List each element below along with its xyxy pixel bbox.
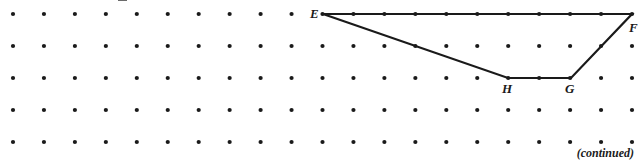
grid-dot <box>599 108 603 112</box>
grid-dot <box>475 108 479 112</box>
grid-dot <box>73 76 77 80</box>
grid-dot <box>413 108 417 112</box>
grid-dot <box>630 140 634 144</box>
grid-dot <box>166 44 170 48</box>
grid-dot <box>259 108 263 112</box>
grid-dot <box>506 140 510 144</box>
grid-dot <box>444 140 448 144</box>
continued-note: (continued) <box>577 146 634 161</box>
grid-dot <box>259 76 263 80</box>
grid-dot <box>104 76 108 80</box>
grid-dot <box>135 108 139 112</box>
grid-dot <box>228 140 232 144</box>
grid-dot <box>228 44 232 48</box>
grid-dot <box>104 108 108 112</box>
grid-dot <box>166 12 170 16</box>
grid-dot <box>289 76 293 80</box>
grid-dot <box>104 44 108 48</box>
grid-dot <box>166 140 170 144</box>
grid-dot <box>568 44 572 48</box>
grid-dot <box>73 12 77 16</box>
grid-dot <box>73 44 77 48</box>
grid-dot <box>475 44 479 48</box>
grid-dot <box>42 44 46 48</box>
grid-dot <box>599 140 603 144</box>
grid-dot <box>630 108 634 112</box>
grid-dot <box>259 140 263 144</box>
grid-dot <box>382 44 386 48</box>
grid-dot <box>599 76 603 80</box>
grid-dot <box>228 76 232 80</box>
grid-dot <box>475 76 479 80</box>
grid-dot <box>444 76 448 80</box>
grid-dot <box>289 44 293 48</box>
grid-dot <box>197 12 201 16</box>
grid-dot <box>506 44 510 48</box>
grid-dot <box>537 140 541 144</box>
grid-dot <box>630 76 634 80</box>
grid-dot <box>568 140 572 144</box>
grid-dot <box>413 140 417 144</box>
grid-dot <box>166 108 170 112</box>
grid-dot <box>506 108 510 112</box>
grid-dot <box>42 12 46 16</box>
dot-grid-figure-svg <box>0 0 640 164</box>
grid-dot <box>351 140 355 144</box>
grid-dot <box>135 12 139 16</box>
grid-dot <box>289 140 293 144</box>
grid-dot <box>259 44 263 48</box>
grid-dot <box>630 44 634 48</box>
grid-dot <box>568 108 572 112</box>
grid-dot <box>197 76 201 80</box>
grid-dot <box>73 108 77 112</box>
grid-dot <box>537 44 541 48</box>
grid-dot <box>228 12 232 16</box>
grid-dot <box>320 76 324 80</box>
figure-canvas: E F G H (continued) <box>0 0 640 164</box>
grid-dot <box>11 108 15 112</box>
grid-dot <box>320 140 324 144</box>
grid-dot <box>11 76 15 80</box>
vertex-label-h: H <box>502 82 512 95</box>
vertex-label-g: G <box>565 82 574 95</box>
grid-dot <box>197 108 201 112</box>
grid-dot <box>351 108 355 112</box>
grid-dot <box>320 108 324 112</box>
grid-dot <box>11 140 15 144</box>
vertex-label-f: F <box>629 21 638 34</box>
grid-dot <box>104 140 108 144</box>
grid-dot <box>135 76 139 80</box>
grid-dot <box>351 44 355 48</box>
grid-dot <box>475 140 479 144</box>
grid-dot <box>42 108 46 112</box>
grid-dot <box>259 12 263 16</box>
grid-dot <box>382 108 386 112</box>
grid-dot <box>228 108 232 112</box>
grid-dot <box>382 140 386 144</box>
grid-dot <box>320 44 324 48</box>
grid-dot <box>382 76 386 80</box>
grid-dot <box>413 76 417 80</box>
grid-dot <box>444 44 448 48</box>
grid-dot <box>104 12 108 16</box>
grid-dot <box>166 76 170 80</box>
grid-dot <box>11 12 15 16</box>
grid-dot <box>444 108 448 112</box>
grid-dot <box>135 44 139 48</box>
grid-dot <box>42 140 46 144</box>
grid-dot <box>351 76 355 80</box>
grid-dot <box>537 108 541 112</box>
grid-dot <box>197 140 201 144</box>
grid-dot <box>135 140 139 144</box>
grid-dot <box>197 44 201 48</box>
grid-dot <box>42 76 46 80</box>
grid-dot <box>11 44 15 48</box>
grid-dot <box>289 108 293 112</box>
grid-dot <box>73 140 77 144</box>
grid-dot <box>289 12 293 16</box>
vertex-label-e: E <box>310 7 319 20</box>
